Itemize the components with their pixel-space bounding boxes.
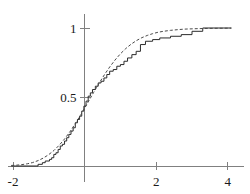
series-empirical-cdf bbox=[11, 28, 231, 166]
series-theoretical-cdf bbox=[11, 28, 231, 165]
cdf-plot-figure: -2240.51 bbox=[0, 0, 250, 194]
y-tick-label: 0.5 bbox=[60, 91, 76, 104]
x-tick-label: 2 bbox=[153, 175, 160, 188]
data-series-group bbox=[11, 28, 231, 166]
plot-canvas bbox=[0, 0, 250, 194]
axes-group bbox=[8, 14, 244, 182]
y-tick-label: 1 bbox=[70, 22, 77, 35]
x-tick-label: -2 bbox=[8, 175, 19, 188]
x-tick-label: 4 bbox=[225, 175, 232, 188]
